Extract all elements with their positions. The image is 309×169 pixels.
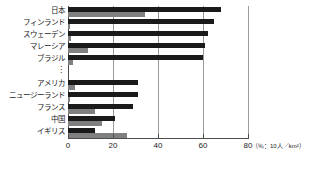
category-label: マレーシア: [0, 43, 65, 51]
bar-series-1: [68, 92, 138, 97]
plot-area: [68, 6, 248, 139]
tick-mark: [203, 134, 204, 139]
bar-row: [68, 104, 248, 116]
bar-row: [68, 80, 248, 92]
tick-mark: [113, 134, 114, 139]
category-label: フィンランド: [0, 19, 65, 27]
bar-row: [68, 19, 248, 31]
bar-series-1: [68, 31, 208, 36]
category-label: ニュージーランド: [0, 92, 65, 100]
category-label: アメリカ: [0, 80, 65, 88]
bar-row: [68, 7, 248, 19]
axis-break-marker: ⋮: [0, 66, 65, 74]
axis-unit-note: （％：10人／km²）: [252, 142, 305, 150]
bar-series-2: [68, 133, 127, 138]
category-label: フランス: [0, 104, 65, 112]
bar-series-2: [68, 24, 70, 29]
bar-series-2: [68, 121, 102, 126]
bar-series-2: [68, 12, 145, 17]
category-label: スウェーデン: [0, 31, 65, 39]
bar-series-1: [68, 80, 138, 85]
bar-row: [68, 55, 248, 67]
bar-series-1: [68, 43, 205, 48]
value-tick-label: 20: [98, 141, 128, 150]
value-tick-label: 60: [188, 141, 218, 150]
bar-rows: [68, 6, 248, 139]
bar-series-1: [68, 19, 214, 24]
bar-series-2: [68, 97, 70, 102]
tick-mark: [68, 134, 69, 139]
bar-series-2: [68, 48, 88, 53]
bar-row: [68, 31, 248, 43]
bar-series-2: [68, 36, 71, 41]
tick-mark: [158, 134, 159, 139]
value-tick-label: 40: [143, 141, 173, 150]
value-tick-label: 0: [53, 141, 83, 150]
gridline: [248, 6, 249, 139]
bar-row: [68, 43, 248, 55]
bar-series-2: [68, 60, 73, 65]
bar-series-1: [68, 55, 203, 60]
bar-series-2: [68, 109, 95, 114]
category-axis-labels: 日本フィンランドスウェーデンマレーシアブラジルアメリカニュージーランドフランス中…: [0, 6, 65, 139]
bar-row: [68, 116, 248, 128]
category-label: ブラジル: [0, 55, 65, 63]
tick-mark: [248, 134, 249, 139]
bar-chart: 日本フィンランドスウェーデンマレーシアブラジルアメリカニュージーランドフランス中…: [0, 0, 309, 169]
bar-series-2: [68, 85, 75, 90]
category-label: 日本: [0, 7, 65, 15]
category-label: イギリス: [0, 128, 65, 136]
category-label: 中国: [0, 116, 65, 124]
bar-row: [68, 92, 248, 104]
